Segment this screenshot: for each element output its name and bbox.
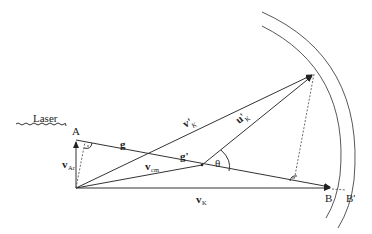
right-angle-dot-a [87, 145, 88, 146]
laser-label: Laser [33, 112, 58, 124]
point-a-label: A [72, 125, 80, 137]
v-k-prime-subscript: K [190, 120, 197, 128]
v-ar-subscript: Ar [68, 164, 76, 171]
vector-v-k-prime [76, 75, 312, 188]
sphere-arc-inner [262, 26, 341, 218]
v-k-subscript: K [202, 199, 207, 206]
vector-u-k-prime [202, 76, 312, 165]
right-angle-dot-b [292, 177, 293, 178]
v-cm-subscript: cm [151, 166, 159, 173]
sphere-arc-outer [262, 12, 355, 228]
center-of-mass-point [201, 164, 204, 167]
diagram-canvas: Laser A B B' g g' v Ar v cm v K v' K u' … [0, 0, 372, 234]
dashed-perpendicular-a [76, 142, 85, 188]
point-b-label: B [325, 192, 332, 204]
vector-g [76, 140, 330, 187]
g-prime-label: g' [180, 150, 189, 162]
dashed-b-to-b-prime [332, 189, 346, 190]
vector-v-cm [76, 165, 202, 188]
point-b-prime-label: B' [346, 192, 355, 204]
dashed-perpendicular-b [294, 74, 314, 181]
g-label: g [120, 138, 126, 150]
theta-label: θ [215, 157, 220, 169]
